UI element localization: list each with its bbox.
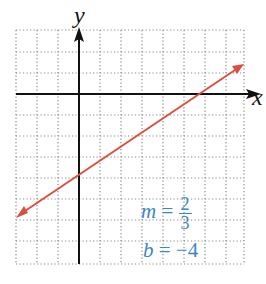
x-axis-label: x [252,84,263,111]
intercept-variable: b [143,238,154,262]
slope-denominator: 3 [179,214,192,232]
coordinate-plane [0,0,266,284]
line-arrow-left-icon [16,206,28,218]
slope-numerator: 2 [179,195,192,214]
slope-fraction: 2 3 [179,195,192,232]
axes [16,36,252,264]
grid [16,30,244,264]
equals-sign: = [161,199,173,223]
y-axis-label: y [74,2,85,29]
intercept-annotation: b = −4 [143,240,198,261]
intercept-value: −4 [176,238,198,262]
equals-sign: = [159,238,171,262]
slope-annotation: m = 2 3 [141,195,192,232]
slope-variable: m [141,199,156,223]
graphed-line [16,64,244,218]
